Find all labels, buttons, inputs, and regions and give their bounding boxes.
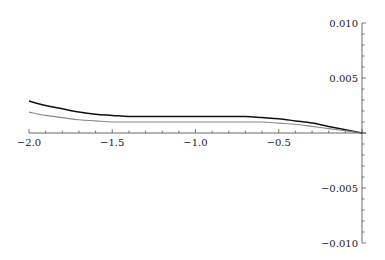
x-tick-label: −1.5 (100, 137, 124, 148)
x-tick-label: −1.0 (183, 137, 207, 148)
plot-curves (29, 101, 362, 133)
y-tick-label: 0.005 (329, 73, 358, 84)
black-curve (29, 101, 362, 133)
line-chart: −2.0−1.5−1.0−0.5 0.0100.005−0.005−0.010 (0, 0, 385, 260)
y-tick-label: 0.010 (329, 18, 358, 29)
x-tick-label: −0.5 (267, 137, 291, 148)
y-tick-label: −0.005 (321, 183, 358, 194)
x-axis: −2.0−1.5−1.0−0.5 (17, 129, 366, 148)
y-tick-label: −0.010 (321, 238, 358, 249)
x-tick-label: −2.0 (17, 137, 41, 148)
